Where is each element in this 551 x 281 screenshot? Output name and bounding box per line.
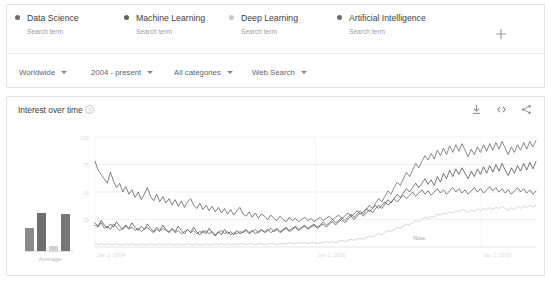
x-axis-tick-label: Jan 1, 2004 [97,252,125,258]
series-color-dot-2 [229,15,234,20]
search-term-item[interactable]: Data Science Search term [15,11,79,36]
search-term-name-0: Data Science [27,13,79,23]
y-axis-tick-label: 75 [83,162,89,168]
chart-actions [471,104,532,115]
series-color-dot-0 [15,15,20,20]
search-term-name-2: Deep Learning [241,13,298,23]
search-term-header: Artificial Intelligence [337,11,426,24]
filter-location[interactable]: Worldwide [19,68,67,77]
download-icon[interactable] [471,104,482,115]
average-bar [25,228,34,251]
average-label: Average [25,255,75,263]
filter-time-range-label: 2004 - present [91,68,141,77]
chevron-down-icon [227,71,233,74]
chart-header: Interest over time ? [7,97,544,123]
y-axis-tick-label: 100 [80,135,89,141]
search-term-subtitle-3: Search term [349,28,426,36]
search-term-item[interactable]: Artificial Intelligence Search term [337,11,426,36]
x-axis-tick-label: Jan 1, 2016 [483,252,511,258]
chart-plot-area[interactable]: 255075100Jan 1, 2004Jan 1, 2010Jan 1, 20… [7,123,544,276]
interest-over-time-card: Interest over time ? [6,96,545,276]
search-term-header: Machine Learning [124,11,205,24]
average-panel: Average [25,209,81,263]
search-term-subtitle-2: Search term [241,28,298,36]
search-term-subtitle-1: Search term [136,28,205,36]
average-baseline [25,251,74,252]
series-color-dot-1 [124,15,129,20]
search-term-subtitle-0: Search term [27,28,79,36]
share-icon[interactable] [521,104,532,115]
chart-annotation-note[interactable]: Note [413,235,425,241]
page-title: Interest over time [18,105,83,115]
chevron-down-icon [61,71,67,74]
plus-icon[interactable] [494,27,508,41]
card-divider [7,53,544,54]
search-term-header: Deep Learning [229,11,298,24]
search-term-header: Data Science [15,11,79,24]
chevron-down-icon [147,71,153,74]
average-bar [61,214,70,251]
filter-category[interactable]: All categories [174,68,233,77]
average-bar [37,213,46,251]
filter-bar: Worldwide 2004 - present All categories … [7,57,544,88]
y-axis-tick-label: 25 [83,217,89,223]
filter-location-label: Worldwide [19,68,55,77]
x-axis-tick-label: Jan 1, 2010 [318,252,346,258]
search-term-item[interactable]: Machine Learning Search term [124,11,205,36]
filter-search-type[interactable]: Web Search [252,68,307,77]
interest-over-time-linechart[interactable]: 255075100Jan 1, 2004Jan 1, 2010Jan 1, 20… [7,123,544,276]
search-term-item[interactable]: Deep Learning Search term [229,11,298,36]
filter-search-type-label: Web Search [252,68,295,77]
filter-time-range[interactable]: 2004 - present [91,68,153,77]
series-color-dot-3 [337,15,342,20]
filter-category-label: All categories [174,68,221,77]
search-terms-card: Data Science Search term Machine Learnin… [6,4,545,88]
embed-code-icon[interactable] [496,104,507,115]
search-terms-row: Data Science Search term Machine Learnin… [7,11,544,51]
help-circle-icon[interactable]: ? [85,105,94,114]
y-axis-tick-label: 50 [83,190,89,196]
average-bars [25,213,81,251]
search-term-name-3: Artificial Intelligence [349,13,426,23]
search-term-name-1: Machine Learning [136,13,205,23]
google-trends-screenshot: Data Science Search term Machine Learnin… [0,0,551,281]
chevron-down-icon [301,71,307,74]
